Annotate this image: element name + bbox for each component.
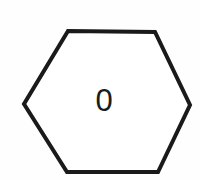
hexagon-outline — [24, 31, 190, 172]
figure-canvas: 0 — [0, 0, 200, 181]
hexagon-figure — [0, 0, 200, 181]
